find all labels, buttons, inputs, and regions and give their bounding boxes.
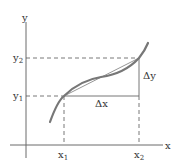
- y1-label: y1: [12, 90, 23, 103]
- y-axis-label: y: [21, 12, 28, 23]
- function-curve: [50, 43, 148, 122]
- x2-label: x2: [134, 149, 144, 162]
- delta-y-label: Δy: [143, 70, 156, 81]
- x1-label: x1: [58, 149, 68, 162]
- x-axis-label: x: [165, 140, 171, 151]
- delta-x-label: Δx: [95, 98, 108, 109]
- y2-label: y2: [12, 52, 23, 65]
- secant-diagram: y x y2 y1 x1 x2 Δx Δy: [0, 0, 178, 167]
